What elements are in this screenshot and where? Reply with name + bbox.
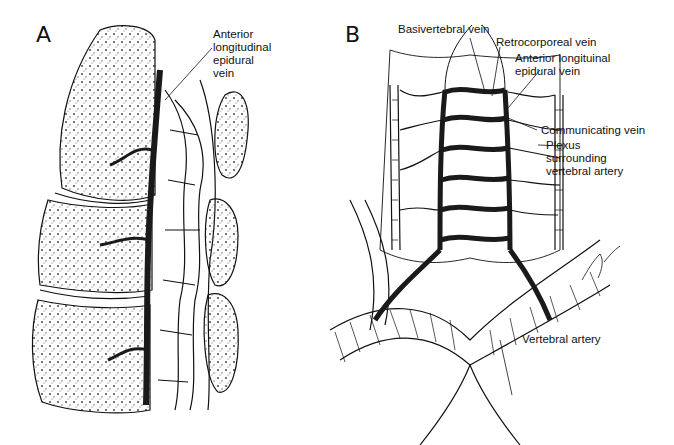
label-plexus-surrounding-vertebral-artery: Plexus surrounding vertebral artery — [546, 139, 623, 178]
label-basivertebral-vein: Basivertebral vein — [398, 23, 489, 36]
panel-b-drawing — [330, 25, 610, 445]
artist-signature — [582, 246, 620, 280]
label-communicating-vein: Communicating vein — [541, 124, 645, 137]
label-retrocorporeal-vein: Retrocorporeal vein — [496, 36, 596, 49]
label-anterior-longituinal-epidural-vein-b: Anterior longituinal epidural vein — [515, 52, 610, 78]
label-anterior-longitudinal-epidural-vein-a: Anterior longitudinal epidural vein — [213, 28, 271, 80]
label-vertebral-artery: Vertebral artery — [522, 333, 601, 346]
panel-a-drawing — [32, 26, 248, 413]
leader-line — [165, 48, 212, 100]
